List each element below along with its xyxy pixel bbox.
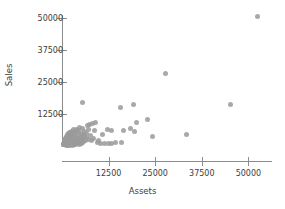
data-point — [131, 102, 136, 107]
data-point — [184, 132, 189, 137]
x-axis-tick-label: 37500 — [177, 169, 227, 178]
x-axis-tick — [155, 157, 156, 166]
y-axis-title: Sales — [4, 52, 14, 98]
data-point — [145, 117, 150, 122]
data-point — [255, 14, 260, 19]
x-axis-spine — [62, 161, 272, 162]
x-axis-title: Assets — [0, 186, 285, 196]
data-point — [77, 142, 82, 147]
data-point — [92, 128, 97, 133]
x-axis-tick-label: 25000 — [130, 169, 180, 178]
data-point — [90, 121, 95, 126]
data-point — [91, 136, 96, 141]
data-point — [118, 105, 123, 110]
y-axis-tick-label: 50000 — [38, 14, 63, 23]
scatter-plot-figure: 1250025000375005000012500250003750050000… — [0, 0, 285, 209]
y-axis-tick-label: 25000 — [38, 78, 63, 87]
data-point — [150, 134, 155, 139]
data-point — [119, 140, 124, 145]
data-point — [100, 132, 105, 137]
x-axis-tick-label: 50000 — [223, 169, 273, 178]
data-point — [134, 120, 139, 125]
data-point — [80, 100, 85, 105]
x-axis-tick — [109, 157, 110, 166]
data-point — [228, 102, 233, 107]
data-point — [121, 128, 126, 133]
data-point — [132, 129, 137, 134]
x-axis-tick — [202, 157, 203, 166]
data-point — [163, 71, 168, 76]
data-point — [109, 128, 114, 133]
x-axis-tick-label: 12500 — [84, 169, 134, 178]
x-axis-tick — [248, 157, 249, 166]
y-axis-tick-label: 37500 — [38, 46, 63, 55]
y-axis-tick-label: 12500 — [38, 110, 63, 119]
data-point — [113, 140, 118, 145]
